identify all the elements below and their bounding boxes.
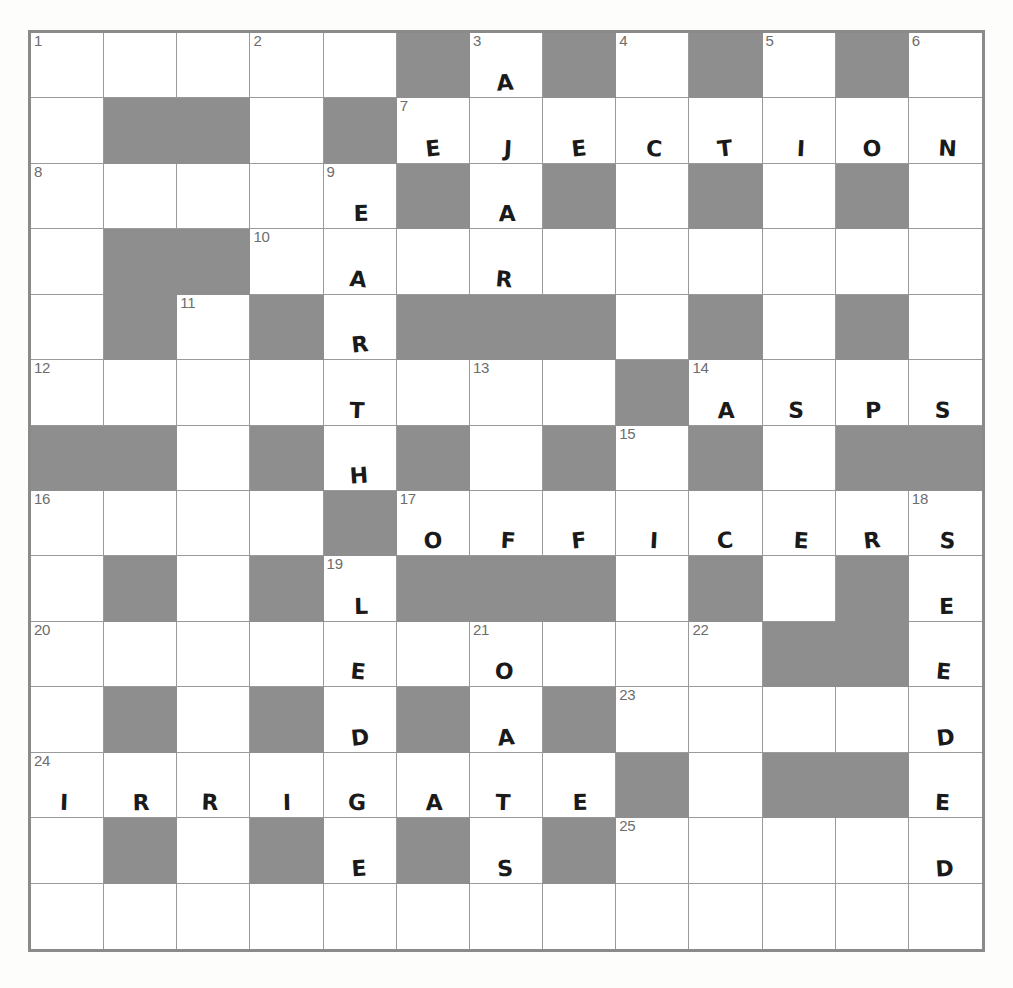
letter-cell[interactable]	[177, 556, 250, 621]
letter-cell[interactable]: H	[324, 426, 397, 491]
letter-cell[interactable]: S	[763, 360, 836, 425]
letter-cell[interactable]: E	[909, 753, 982, 818]
letter-cell[interactable]: 9E	[324, 164, 397, 229]
letter-cell[interactable]: T	[689, 98, 762, 163]
letter-cell[interactable]: S	[909, 360, 982, 425]
letter-cell[interactable]	[250, 360, 323, 425]
letter-cell[interactable]: 15	[616, 426, 689, 491]
letter-cell[interactable]: 8	[31, 164, 104, 229]
letter-cell[interactable]	[31, 98, 104, 163]
letter-cell[interactable]	[250, 622, 323, 687]
letter-cell[interactable]: 2	[250, 33, 323, 98]
letter-cell[interactable]	[104, 622, 177, 687]
letter-cell[interactable]	[836, 884, 909, 949]
letter-cell[interactable]	[31, 295, 104, 360]
letter-cell[interactable]	[177, 687, 250, 752]
letter-cell[interactable]: R	[177, 753, 250, 818]
letter-cell[interactable]: 14A	[689, 360, 762, 425]
letter-cell[interactable]: S	[470, 818, 543, 883]
letter-cell[interactable]	[689, 229, 762, 294]
letter-cell[interactable]: 21O	[470, 622, 543, 687]
letter-cell[interactable]	[763, 687, 836, 752]
letter-cell[interactable]: R	[470, 229, 543, 294]
letter-cell[interactable]: 16	[31, 491, 104, 556]
letter-cell[interactable]: 22	[689, 622, 762, 687]
letter-cell[interactable]: 13	[470, 360, 543, 425]
letter-cell[interactable]: E	[909, 556, 982, 621]
letter-cell[interactable]	[470, 884, 543, 949]
letter-cell[interactable]	[616, 164, 689, 229]
letter-cell[interactable]: F	[470, 491, 543, 556]
letter-cell[interactable]	[689, 884, 762, 949]
letter-cell[interactable]: 4	[616, 33, 689, 98]
letter-cell[interactable]: I	[250, 753, 323, 818]
letter-cell[interactable]	[177, 426, 250, 491]
letter-cell[interactable]	[763, 164, 836, 229]
letter-cell[interactable]	[470, 426, 543, 491]
letter-cell[interactable]	[104, 491, 177, 556]
letter-cell[interactable]: E	[324, 818, 397, 883]
letter-cell[interactable]	[250, 884, 323, 949]
letter-cell[interactable]	[543, 229, 616, 294]
letter-cell[interactable]: T	[470, 753, 543, 818]
letter-cell[interactable]	[31, 556, 104, 621]
letter-cell[interactable]: 11	[177, 295, 250, 360]
letter-cell[interactable]: N	[909, 98, 982, 163]
letter-cell[interactable]	[763, 295, 836, 360]
letter-cell[interactable]	[31, 884, 104, 949]
letter-cell[interactable]: 10	[250, 229, 323, 294]
letter-cell[interactable]	[836, 687, 909, 752]
letter-cell[interactable]: I	[616, 491, 689, 556]
letter-cell[interactable]	[763, 229, 836, 294]
letter-cell[interactable]	[31, 229, 104, 294]
letter-cell[interactable]: A	[470, 164, 543, 229]
letter-cell[interactable]	[104, 360, 177, 425]
letter-cell[interactable]: J	[470, 98, 543, 163]
letter-cell[interactable]	[177, 360, 250, 425]
letter-cell[interactable]	[909, 229, 982, 294]
letter-cell[interactable]: D	[324, 687, 397, 752]
letter-cell[interactable]: 5	[763, 33, 836, 98]
letter-cell[interactable]	[177, 818, 250, 883]
letter-cell[interactable]	[177, 164, 250, 229]
letter-cell[interactable]	[324, 33, 397, 98]
letter-cell[interactable]: A	[397, 753, 470, 818]
letter-cell[interactable]: E	[909, 622, 982, 687]
letter-cell[interactable]	[763, 884, 836, 949]
letter-cell[interactable]	[836, 229, 909, 294]
letter-cell[interactable]: R	[324, 295, 397, 360]
letter-cell[interactable]	[616, 229, 689, 294]
letter-cell[interactable]: F	[543, 491, 616, 556]
letter-cell[interactable]	[177, 622, 250, 687]
letter-cell[interactable]	[763, 556, 836, 621]
letter-cell[interactable]: D	[909, 687, 982, 752]
letter-cell[interactable]: 12	[31, 360, 104, 425]
letter-cell[interactable]: E	[324, 622, 397, 687]
letter-cell[interactable]	[397, 360, 470, 425]
letter-cell[interactable]: T	[324, 360, 397, 425]
letter-cell[interactable]: 20	[31, 622, 104, 687]
letter-cell[interactable]	[616, 295, 689, 360]
letter-cell[interactable]	[689, 818, 762, 883]
letter-cell[interactable]	[616, 622, 689, 687]
letter-cell[interactable]: E	[763, 491, 836, 556]
letter-cell[interactable]	[250, 164, 323, 229]
letter-cell[interactable]: D	[909, 818, 982, 883]
letter-cell[interactable]: A	[470, 687, 543, 752]
letter-cell[interactable]	[397, 229, 470, 294]
letter-cell[interactable]	[909, 884, 982, 949]
letter-cell[interactable]: 19L	[324, 556, 397, 621]
letter-cell[interactable]: P	[836, 360, 909, 425]
letter-cell[interactable]	[104, 884, 177, 949]
letter-cell[interactable]: A	[324, 229, 397, 294]
letter-cell[interactable]: 17O	[397, 491, 470, 556]
letter-cell[interactable]: 7E	[397, 98, 470, 163]
letter-cell[interactable]: O	[836, 98, 909, 163]
letter-cell[interactable]: C	[616, 98, 689, 163]
letter-cell[interactable]	[543, 622, 616, 687]
letter-cell[interactable]: 25	[616, 818, 689, 883]
letter-cell[interactable]: R	[836, 491, 909, 556]
letter-cell[interactable]: 6	[909, 33, 982, 98]
letter-cell[interactable]	[177, 33, 250, 98]
letter-cell[interactable]: 1	[31, 33, 104, 98]
